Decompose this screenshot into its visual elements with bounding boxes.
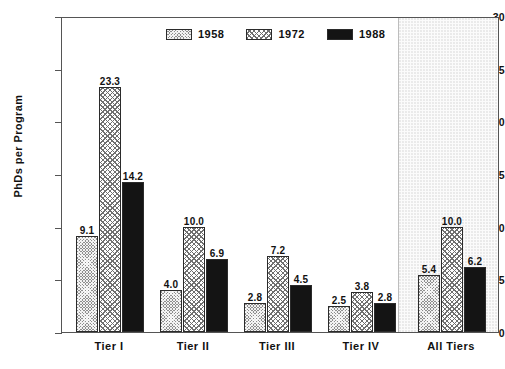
bar: 14.2 xyxy=(122,182,144,332)
bar-value-label: 2.8 xyxy=(378,292,393,303)
bar-value-label: 6.9 xyxy=(210,248,225,259)
bar: 2.8 xyxy=(244,303,266,332)
bar-value-label: 4.5 xyxy=(294,274,309,285)
x-axis-label: All Tiers xyxy=(427,340,475,352)
legend-item: 1972 xyxy=(246,28,304,40)
bar-value-label: 10.0 xyxy=(442,216,462,227)
bar-group: 4.010.06.9 xyxy=(160,18,228,332)
plot-area: 9.123.314.24.010.06.92.87.24.52.53.82.85… xyxy=(61,17,499,333)
bar-value-label: 10.0 xyxy=(184,216,204,227)
bar: 2.8 xyxy=(374,303,396,332)
legend-label: 1988 xyxy=(359,28,385,40)
legend: 195819721988 xyxy=(166,28,385,40)
bar-value-label: 9.1 xyxy=(80,225,95,236)
legend-swatch xyxy=(166,29,192,40)
bar: 3.8 xyxy=(351,292,373,332)
bar: 5.4 xyxy=(418,275,440,332)
legend-item: 1958 xyxy=(166,28,224,40)
legend-swatch xyxy=(327,29,353,40)
legend-swatch xyxy=(246,29,272,40)
bar: 4.5 xyxy=(290,285,312,332)
bar: 6.9 xyxy=(206,259,228,332)
bar: 10.0 xyxy=(441,227,463,332)
x-axis-label: Tier II xyxy=(177,340,210,352)
bar: 7.2 xyxy=(267,256,289,332)
legend-label: 1958 xyxy=(198,28,224,40)
bar: 10.0 xyxy=(183,227,205,332)
bar-value-label: 7.2 xyxy=(271,245,286,256)
bar-value-label: 14.2 xyxy=(123,171,143,182)
bar-group: 2.53.82.8 xyxy=(328,18,396,332)
x-axis-label: Tier IV xyxy=(343,340,380,352)
legend-label: 1972 xyxy=(278,28,304,40)
x-axis-label: Tier I xyxy=(94,340,123,352)
bar-chart: PhDs per Program 051015202530 9.123.314.… xyxy=(0,0,505,369)
bar-value-label: 3.8 xyxy=(355,281,370,292)
bar: 2.5 xyxy=(328,306,350,332)
bar-value-label: 2.8 xyxy=(248,292,263,303)
bar: 6.2 xyxy=(464,267,486,332)
bar-group: 9.123.314.2 xyxy=(76,18,144,332)
bar-group: 2.87.24.5 xyxy=(244,18,312,332)
bar-value-label: 6.2 xyxy=(468,256,483,267)
bar-value-label: 4.0 xyxy=(164,279,179,290)
bar-value-label: 2.5 xyxy=(332,295,347,306)
y-axis-tick xyxy=(55,333,62,334)
bar: 4.0 xyxy=(160,290,182,332)
bar-value-label: 23.3 xyxy=(100,76,120,87)
bar-group: 5.410.06.2 xyxy=(418,18,486,332)
bar-value-label: 5.4 xyxy=(422,264,437,275)
legend-item: 1988 xyxy=(327,28,385,40)
bar: 9.1 xyxy=(76,236,98,332)
x-axis-label: Tier III xyxy=(259,340,295,352)
y-axis-title: PhDs per Program xyxy=(12,66,24,226)
bar: 23.3 xyxy=(99,87,121,332)
